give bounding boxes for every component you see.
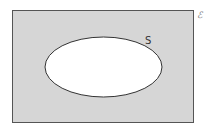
- set-s-label: S: [145, 35, 151, 46]
- venn-diagram: S ℰ: [0, 0, 216, 128]
- set-s-ellipse: [45, 37, 162, 97]
- universal-set-label: ℰ: [197, 10, 204, 20]
